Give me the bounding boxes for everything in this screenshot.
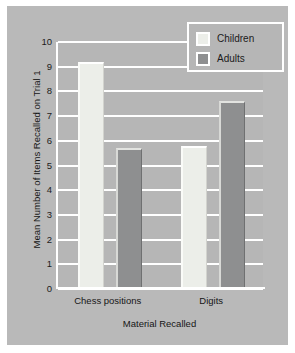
x-axis-tick-label: Chess positions bbox=[74, 295, 141, 306]
legend-label-children: Children bbox=[217, 34, 254, 44]
legend-item-children: Children bbox=[196, 30, 254, 47]
x-axis-title: Material Recalled bbox=[56, 318, 263, 329]
chart-legend: Children Adults bbox=[187, 22, 284, 72]
x-axis-tick-label: Digits bbox=[199, 295, 223, 306]
bar-adults-digits bbox=[219, 101, 245, 289]
legend-item-adults: Adults bbox=[196, 50, 245, 67]
bar-children-digits bbox=[181, 146, 207, 289]
legend-swatch-adults bbox=[196, 52, 210, 66]
x-axis-line bbox=[56, 287, 265, 289]
legend-swatch-children bbox=[196, 32, 210, 46]
plot-area bbox=[56, 42, 263, 289]
legend-label-adults: Adults bbox=[217, 54, 245, 64]
bar-adults-chess-positions bbox=[116, 148, 142, 289]
chart-figure: 012345678910 Mean Number of Items Recall… bbox=[7, 6, 288, 345]
y-axis-title: Mean Number of Items Recalled on Trial 1 bbox=[31, 45, 42, 275]
y-axis-tick-label: 0 bbox=[26, 284, 52, 294]
bar-children-chess-positions bbox=[78, 62, 104, 289]
